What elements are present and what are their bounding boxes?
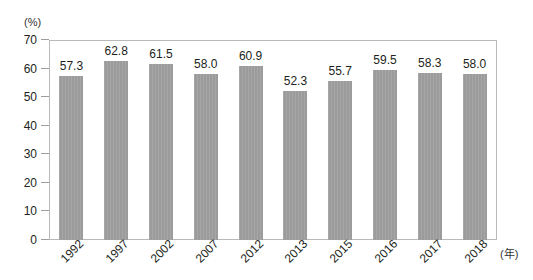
bar <box>104 61 128 240</box>
y-axis-tick: 30 <box>0 147 49 161</box>
x-axis-tick-label: 1997 <box>104 238 132 266</box>
y-axis-tick-mark <box>41 239 49 240</box>
y-axis: 706050403020100 <box>0 33 49 247</box>
y-axis-tick-label: 20 <box>24 176 37 190</box>
bar <box>194 74 218 240</box>
bar-value-label: 62.8 <box>105 44 128 58</box>
bar-slot: 57.3 <box>49 40 94 240</box>
y-axis-tick: 60 <box>0 62 49 76</box>
bar <box>328 81 352 240</box>
y-axis-tick: 20 <box>0 176 49 190</box>
bar <box>418 73 442 240</box>
bar-value-label: 61.5 <box>149 47 172 61</box>
bar <box>283 91 307 240</box>
x-axis-tick: 2007 <box>183 241 228 280</box>
x-axis-tick: 2017 <box>407 241 452 280</box>
bar-slot: 61.5 <box>139 40 184 240</box>
bar-slot: 58.0 <box>452 40 497 240</box>
y-axis-tick-label: 60 <box>24 62 37 76</box>
x-axis-tick-label: 2013 <box>283 238 311 266</box>
x-axis-tick-label: 2012 <box>238 238 266 266</box>
bar-value-label: 60.9 <box>239 49 262 63</box>
y-axis-tick-label: 50 <box>24 90 37 104</box>
x-axis: 1992199720022007201220132015201620172018 <box>49 241 497 280</box>
bar-value-label: 58.3 <box>418 56 441 70</box>
x-axis-tick: 2012 <box>228 241 273 280</box>
bar <box>149 64 173 240</box>
y-axis-tick-mark <box>41 68 49 69</box>
y-axis-tick: 50 <box>0 90 49 104</box>
y-axis-tick-label: 0 <box>30 233 37 247</box>
bar-slot: 62.8 <box>94 40 139 240</box>
x-axis-tick: 2013 <box>273 241 318 280</box>
bar-value-label: 52.3 <box>284 74 307 88</box>
y-axis-tick: 70 <box>0 33 49 47</box>
bar <box>373 70 397 240</box>
y-axis-tick: 40 <box>0 119 49 133</box>
x-axis-tick-label: 2007 <box>193 238 221 266</box>
y-axis-tick-label: 30 <box>24 147 37 161</box>
x-axis-tick: 2018 <box>452 241 497 280</box>
bar-chart: (%) 706050403020100 57.362.861.558.060.9… <box>0 0 533 280</box>
bar-slot: 59.5 <box>363 40 408 240</box>
x-axis-tick-label: 2002 <box>148 238 176 266</box>
bar <box>463 74 487 240</box>
x-axis-tick-label: 1992 <box>59 238 87 266</box>
x-axis-tick: 2016 <box>363 241 408 280</box>
y-axis-tick-mark <box>41 96 49 97</box>
bar-value-label: 57.3 <box>60 59 83 73</box>
bar <box>239 66 263 240</box>
x-axis-tick: 2002 <box>139 241 184 280</box>
x-axis-tick: 2015 <box>318 241 363 280</box>
y-axis-tick-label: 40 <box>24 119 37 133</box>
bar-value-label: 58.0 <box>194 57 217 71</box>
y-axis-tick-mark <box>41 39 49 40</box>
y-axis-tick: 10 <box>0 204 49 218</box>
bar-slot: 60.9 <box>228 40 273 240</box>
bar-value-label: 58.0 <box>463 57 486 71</box>
y-axis-tick-label: 10 <box>24 204 37 218</box>
y-axis-tick-mark <box>41 125 49 126</box>
x-axis-tick: 1992 <box>49 241 94 280</box>
x-axis-tick-label: 2015 <box>328 238 356 266</box>
x-axis-tick-label: 2016 <box>372 238 400 266</box>
x-axis-tick: 1997 <box>94 241 139 280</box>
y-axis-unit-label: (%) <box>24 16 41 28</box>
y-axis-tick-mark <box>41 182 49 183</box>
bar <box>59 76 83 240</box>
bar-slot: 55.7 <box>318 40 363 240</box>
x-axis-tick-label: 2018 <box>462 238 490 266</box>
y-axis-tick-label: 70 <box>24 33 37 47</box>
bar-slot: 52.3 <box>273 40 318 240</box>
bar-value-label: 59.5 <box>373 53 396 67</box>
bar-slot: 58.3 <box>407 40 452 240</box>
y-axis-tick: 0 <box>0 233 49 247</box>
y-axis-tick-mark <box>41 153 49 154</box>
y-axis-tick-mark <box>41 210 49 211</box>
x-axis-title: (年) <box>500 248 518 261</box>
bar-value-label: 55.7 <box>329 64 352 78</box>
bar-slot: 58.0 <box>183 40 228 240</box>
x-axis-tick-label: 2017 <box>417 238 445 266</box>
bars-layer: 57.362.861.558.060.952.355.759.558.358.0 <box>49 40 497 240</box>
